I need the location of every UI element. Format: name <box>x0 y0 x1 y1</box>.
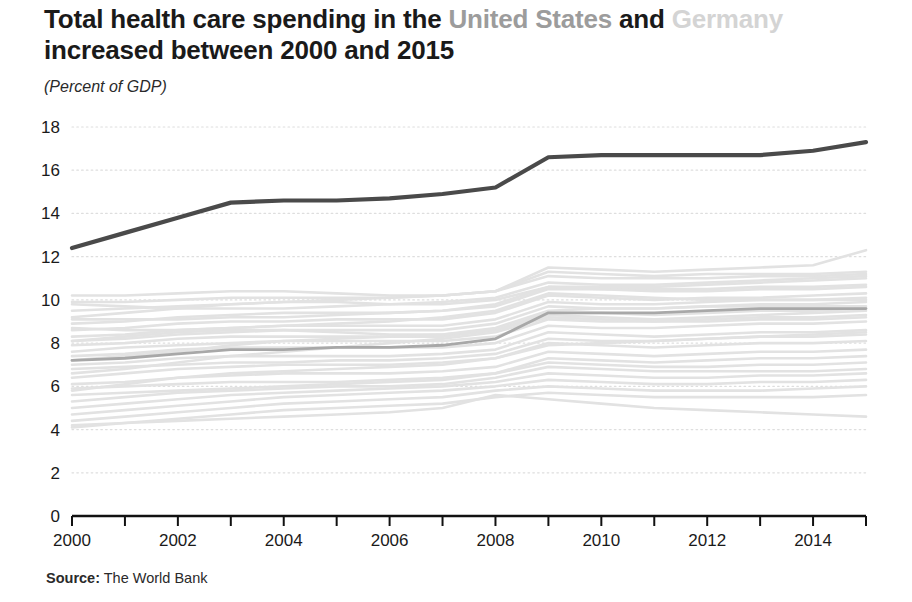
chart-container: Total health care spending in the United… <box>0 0 912 602</box>
x-tick-2012: 2012 <box>688 531 726 550</box>
y-tick-10: 10 <box>41 291 60 310</box>
source-note: Source: The World Bank <box>46 570 207 586</box>
x-axis-tick-labels: 20002002200420062008201020122014 <box>53 531 832 550</box>
y-tick-18: 18 <box>41 118 60 137</box>
y-tick-12: 12 <box>41 248 60 267</box>
x-tick-2008: 2008 <box>477 531 515 550</box>
source-label: Source: <box>46 570 100 586</box>
x-tick-2006: 2006 <box>371 531 409 550</box>
x-tick-2000: 2000 <box>53 531 91 550</box>
y-tick-14: 14 <box>41 204 60 223</box>
series-line-united-states <box>72 142 866 248</box>
y-tick-4: 4 <box>51 421 60 440</box>
y-axis-tick-labels: 024681012141618 <box>41 118 60 526</box>
x-tick-2004: 2004 <box>265 531 303 550</box>
y-tick-6: 6 <box>51 377 60 396</box>
x-axis <box>72 516 866 526</box>
source-text: The World Bank <box>100 570 207 586</box>
y-tick-2: 2 <box>51 464 60 483</box>
y-tick-16: 16 <box>41 161 60 180</box>
chart-plot-area: 024681012141618 200020022004200620082010… <box>0 0 912 560</box>
x-tick-2014: 2014 <box>794 531 832 550</box>
x-tick-2002: 2002 <box>159 531 197 550</box>
y-tick-0: 0 <box>51 507 60 526</box>
background-series-group <box>72 250 866 427</box>
x-tick-2010: 2010 <box>582 531 620 550</box>
y-tick-8: 8 <box>51 334 60 353</box>
